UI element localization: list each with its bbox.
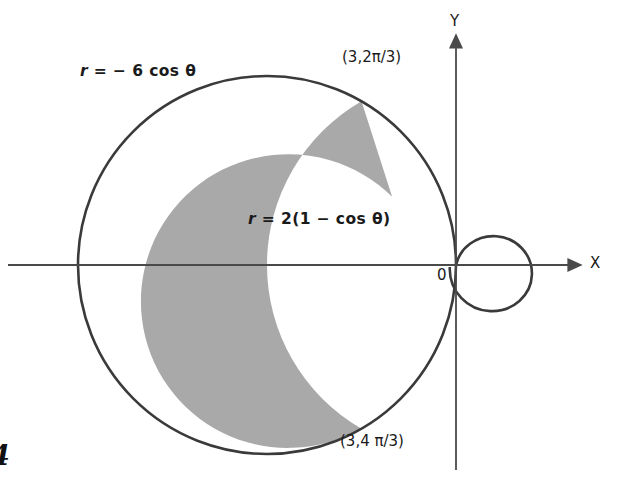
cardioid-equation-label: r = 2(1 − cos θ)	[248, 210, 390, 228]
circle-equation-label: r = − 6 cos θ	[80, 62, 196, 80]
y-axis-label: Y	[450, 12, 459, 30]
circle-eq-var: r	[80, 62, 88, 80]
x-axis-label: X	[590, 254, 600, 272]
intersection-label-upper: (3,2π/3)	[342, 48, 401, 66]
page-corner-mark: 4	[0, 440, 10, 471]
cardioid-eq-body: = 2(1 − cos θ)	[262, 210, 391, 228]
circle-eq-body: = − 6 cos θ	[94, 62, 196, 80]
cardioid-eq-var: r	[248, 210, 256, 228]
intersection-label-lower: (3,4 π/3)	[340, 432, 404, 450]
shaded-region	[141, 101, 392, 448]
origin-label: 0	[437, 266, 447, 284]
curve-cardioid	[450, 236, 532, 311]
